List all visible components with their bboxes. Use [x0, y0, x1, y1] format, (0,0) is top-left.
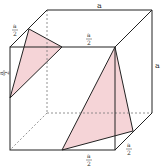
- svg-text:2: 2: [127, 149, 131, 156]
- cube-diagram: a a a 2 a 2 a 2 a 2 a 2: [0, 0, 162, 167]
- svg-text:a: a: [87, 152, 91, 159]
- label-right-edge: a: [155, 61, 160, 70]
- label-half-bottom: a 2: [86, 152, 92, 167]
- label-half-left-side: a 2: [0, 70, 10, 76]
- svg-text:2: 2: [13, 30, 17, 37]
- svg-text:2: 2: [3, 71, 10, 75]
- svg-text:a: a: [13, 22, 17, 29]
- svg-text:a: a: [87, 31, 91, 38]
- svg-text:2: 2: [87, 39, 91, 46]
- label-half-bottom-right: a 2: [126, 141, 132, 156]
- svg-text:2: 2: [87, 160, 91, 167]
- triangle-section-right: [62, 47, 133, 150]
- label-top-edge: a: [97, 1, 102, 10]
- label-half-front-top: a 2: [86, 31, 92, 46]
- svg-text:a: a: [127, 141, 131, 148]
- label-half-top-left: a 2: [12, 22, 18, 37]
